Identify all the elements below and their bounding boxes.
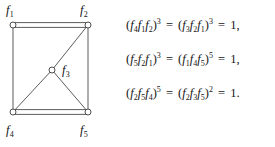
relation-1: (f4f1f2)3 = (f3f2f1)3 = 1, (126, 19, 275, 36)
generator-subscript: 2 (141, 59, 145, 68)
relation-value: 1. (230, 86, 239, 100)
generator-subscript: 1 (149, 59, 153, 68)
relation-exponent: 5 (157, 85, 161, 94)
generator-subscript: 2 (193, 25, 197, 34)
generator-subscript: 5 (141, 93, 145, 102)
generator-subscript: 5 (134, 59, 138, 68)
edge-f1-f2-double (13, 23, 88, 28)
vertex-label-f1-subscript: 1 (10, 10, 14, 19)
equals-sign: = (213, 86, 230, 100)
edge-f3-f5 (52, 70, 88, 112)
vertex-label-f3: f3 (62, 64, 69, 77)
equals-sign: = (161, 86, 178, 100)
generator-subscript: 3 (193, 93, 197, 102)
relation-exponent: 2 (209, 85, 213, 94)
graph-diagram: f1 f2 f3 f4 f5 (0, 0, 118, 147)
vertex-label-f4-subscript: 4 (10, 130, 14, 139)
relation-3-term-2: (f2f3f5)2 (178, 86, 213, 100)
vertex-f3 (49, 67, 55, 73)
relation-1-term-1: (f4f1f2)3 (126, 18, 161, 32)
generator-subscript: 5 (201, 59, 205, 68)
relation-2: (f5f2f1)3 = (f1f4f5)5 = 1, (126, 53, 275, 70)
relation-3: (f2f5f4)5 = (f2f3f5)2 = 1. (126, 87, 275, 104)
generator-subscript: 2 (134, 93, 138, 102)
relation-list: (f4f1f2)3 = (f3f2f1)3 = 1, (f5f2f1)3 = (… (126, 19, 275, 104)
equals-sign: = (161, 18, 178, 32)
relation-exponent: 5 (209, 51, 213, 60)
relation-exponent: 3 (209, 17, 213, 26)
edge-f2-f3 (52, 25, 88, 70)
generator-subscript: 1 (201, 25, 205, 34)
equals-sign: = (213, 52, 230, 66)
relation-2-term-1: (f5f2f1)3 (126, 52, 161, 66)
relation-2-term-2: (f1f4f5)5 (178, 52, 213, 66)
vertex-f1 (10, 22, 16, 28)
vertex-f2 (85, 22, 91, 28)
vertex-label-f5: f5 (80, 124, 87, 137)
relation-value: 1, (230, 52, 239, 66)
generator-subscript: 4 (149, 93, 153, 102)
equals-sign: = (161, 52, 178, 66)
vertex-f5 (85, 109, 91, 115)
relation-3-term-1: (f2f5f4)5 (126, 86, 161, 100)
edge-f3-f4 (13, 70, 52, 112)
generator-subscript: 4 (193, 59, 197, 68)
generator-subscript: 1 (141, 25, 145, 34)
vertex-label-f5-subscript: 5 (84, 130, 88, 139)
generator-subscript: 4 (134, 25, 138, 34)
relation-exponent: 3 (157, 17, 161, 26)
vertex-label-f3-subscript: 3 (66, 70, 70, 79)
generator-subscript: 2 (149, 25, 153, 34)
graph-svg (0, 0, 118, 147)
relation-exponent: 3 (157, 51, 161, 60)
vertex-label-f2-subscript: 2 (84, 10, 88, 19)
generator-subscript: 1 (186, 59, 190, 68)
edge-f4-f5-double (13, 110, 88, 115)
vertex-f4 (10, 109, 16, 115)
vertex-label-f1: f1 (6, 4, 13, 17)
vertex-label-f2: f2 (80, 4, 87, 17)
relation-1-term-2: (f3f2f1)3 (178, 18, 213, 32)
generator-subscript: 2 (186, 93, 190, 102)
generator-subscript: 3 (186, 25, 190, 34)
figure-graph-and-relations: f1 f2 f3 f4 f5 (f4f1f2)3 = (f3f2f1)3 = 1… (0, 0, 275, 147)
vertex-label-f4: f4 (6, 124, 13, 137)
relation-value: 1, (230, 18, 239, 32)
generator-subscript: 5 (201, 93, 205, 102)
equals-sign: = (213, 18, 230, 32)
